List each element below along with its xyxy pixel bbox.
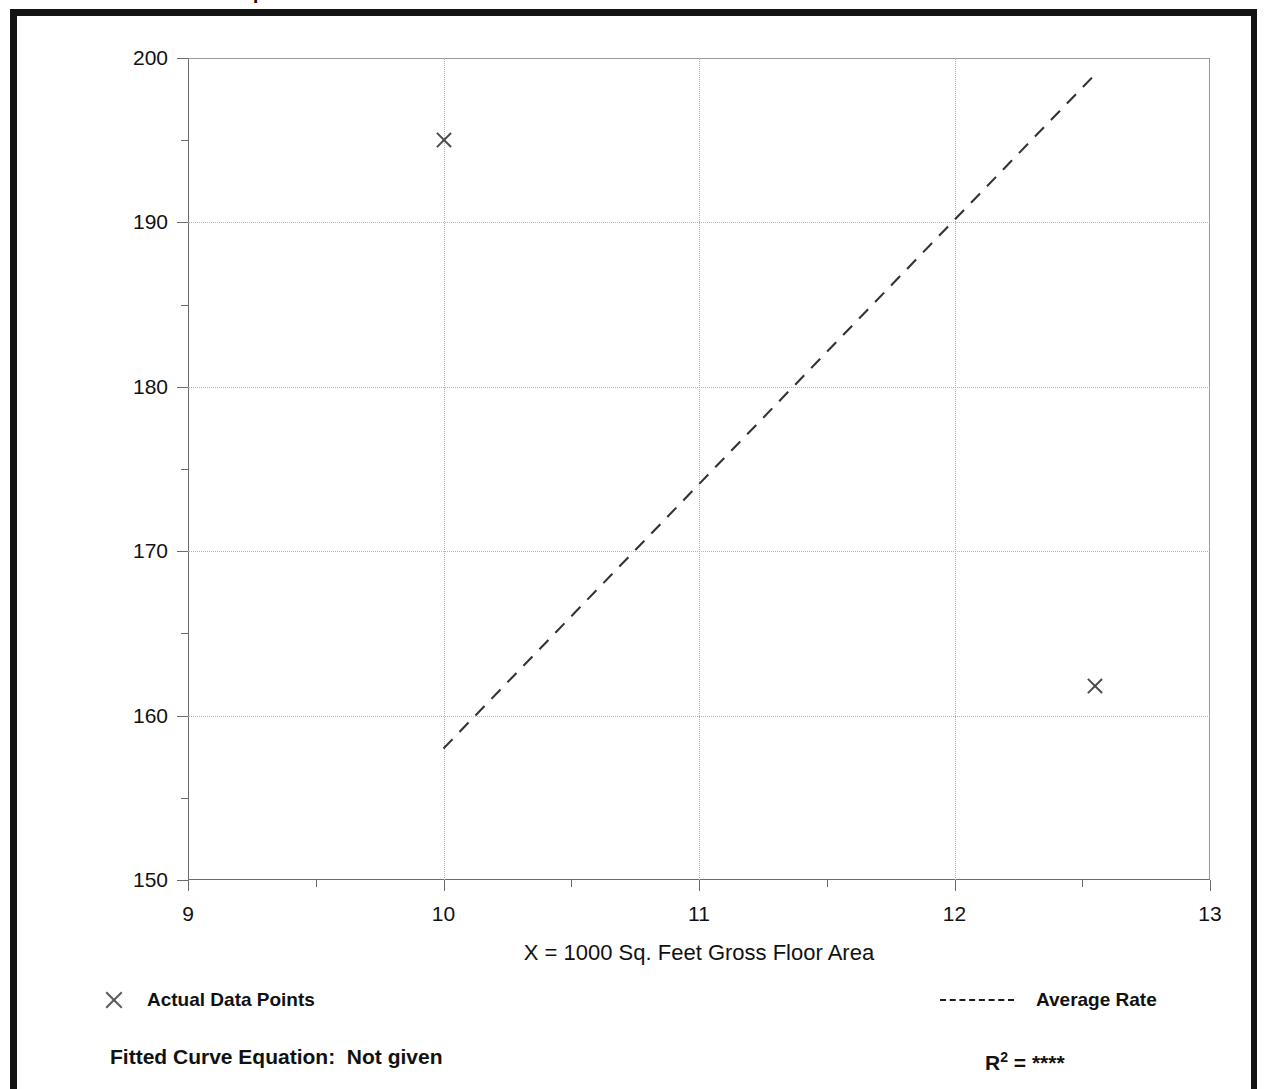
x-tick-label: 12 [943, 902, 966, 926]
x-tick-label: 9 [182, 902, 194, 926]
x-tick [1210, 880, 1211, 891]
cropped-title-strip: I [0, 0, 1269, 7]
legend-entry-data-points: Actual Data Points [103, 983, 315, 1017]
legend-row-primary: Actual Data Points Average Rate [0, 983, 1269, 1017]
plot-region: 150160170180190200 910111213 [188, 58, 1210, 880]
r2-exponent: 2 [1000, 1049, 1008, 1065]
y-tick [177, 387, 188, 388]
trend-line-segment [444, 74, 1096, 748]
x-tick [444, 880, 445, 891]
y-tick [177, 880, 188, 881]
y-axis-title: T = Average Vehicle Trip Ends [38, 0, 78, 98]
cropped-title-fragment: I [253, 0, 259, 7]
y-tick-label: 160 [133, 704, 168, 728]
y-tick-minor [181, 633, 188, 634]
y-tick-minor [181, 469, 188, 470]
x-tick-minor [1082, 880, 1083, 887]
x-tick-label: 10 [432, 902, 455, 926]
y-tick-label: 190 [133, 210, 168, 234]
legend-entry-average-rate: Average Rate [940, 983, 1157, 1017]
x-tick-minor [827, 880, 828, 887]
x-tick-label: 13 [1198, 902, 1221, 926]
y-tick-label: 200 [133, 46, 168, 70]
chart-page: I T = Average Vehicle Trip Ends 15016017… [0, 0, 1269, 1089]
legend-label-average-rate: Average Rate [1036, 989, 1157, 1011]
x-tick-label: 11 [688, 902, 710, 926]
y-tick [177, 716, 188, 717]
fitted-curve-equation: Fitted Curve Equation: Not given [110, 1040, 443, 1074]
legend-label-data-points: Actual Data Points [147, 989, 315, 1011]
y-tick-label: 180 [133, 375, 168, 399]
r2-stars: **** [1032, 1051, 1065, 1074]
y-tick [177, 551, 188, 552]
y-tick [177, 222, 188, 223]
x-axis-title: X = 1000 Sq. Feet Gross Floor Area [188, 940, 1210, 966]
r2-label: R [985, 1051, 1000, 1074]
x-tick [955, 880, 956, 891]
equation-value: Not given [347, 1045, 443, 1068]
r-squared-value: R2 = **** [985, 1040, 1065, 1080]
x-tick [699, 880, 700, 891]
x-tick-minor [571, 880, 572, 887]
dashed-line-icon [940, 999, 1014, 1001]
x-tick-minor [316, 880, 317, 887]
r2-equals: = [1014, 1051, 1026, 1074]
y-tick-minor [181, 305, 188, 306]
x-tick [188, 880, 189, 891]
legend-row-footer: Fitted Curve Equation: Not given R2 = **… [0, 1040, 1269, 1074]
x-marker-icon [103, 989, 125, 1011]
y-tick [177, 58, 188, 59]
data-point-marker [434, 130, 454, 150]
data-point-marker [1085, 676, 1105, 696]
y-tick-label: 150 [133, 868, 168, 892]
y-tick-label: 170 [133, 539, 168, 563]
equation-label: Fitted Curve Equation: [110, 1045, 335, 1068]
y-tick-minor [181, 798, 188, 799]
average-rate-line [188, 58, 1210, 880]
y-tick-minor [181, 140, 188, 141]
